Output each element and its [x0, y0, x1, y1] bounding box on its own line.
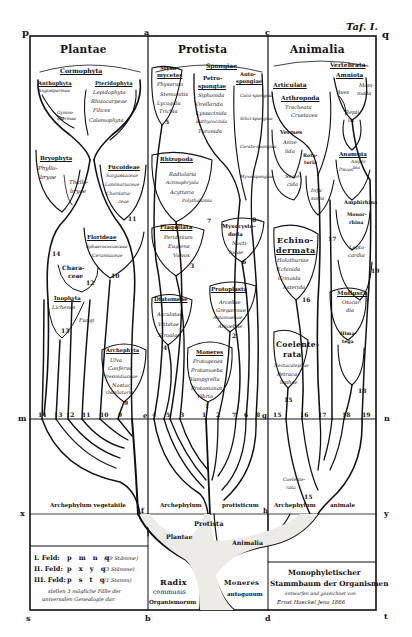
taxon-vittatae: Vittatae	[158, 322, 179, 327]
group-cormophyta: Cormophyta	[60, 68, 102, 74]
kingdom-animalia: Animalia	[290, 44, 345, 55]
stem-number-16: 16	[302, 297, 310, 303]
trunk-label-plantae: Plantae	[166, 534, 192, 540]
label-moneres-autogonum-2: autogonum	[227, 592, 263, 598]
taxon-arcellae: Arcellae	[219, 300, 241, 305]
corner-letter-s: s	[26, 614, 31, 622]
taxon-conferva: Conferva	[108, 366, 132, 371]
taxon-lycogala: Lycogala	[157, 101, 180, 106]
corner-letter-g: g	[262, 412, 267, 419]
taxon-himatega-1: Hima-	[340, 331, 357, 336]
group-moneres: Moneres	[196, 350, 223, 356]
label-coelenterata-small-1: Coelente-	[283, 478, 305, 483]
title-line-2: Stammbaum der Organismen	[270, 580, 388, 587]
label-moneres-autogonum-1: Moneres	[224, 580, 259, 587]
group-coelenterata-1: Coelente-	[276, 341, 319, 349]
corner-letter-n: n	[384, 414, 390, 422]
corner-letter-t: t	[384, 612, 388, 620]
group-petrospongiae-2: spongiae	[198, 84, 226, 90]
taxon-infusoria-1: Infu-	[311, 188, 323, 193]
legend-caption-2: universalen Genealogie dar.	[42, 597, 115, 602]
taxon-echinida: Echinida	[277, 267, 300, 272]
stem-number-9: 9	[124, 400, 128, 406]
title-author: Ernst Haeckel Jena 1866	[277, 600, 345, 605]
stem-number-12: 12	[86, 280, 94, 286]
group-fucoideae: Fucoideae	[108, 165, 140, 171]
protista-bottom-number: 2	[216, 412, 220, 418]
legend-note-2: (3 Stämme)	[104, 567, 135, 572]
taxon-noctilucae-1: Nocti-	[232, 241, 248, 246]
stem-number-14: 14	[52, 251, 60, 257]
taxon-gregarinae: Gregarinae	[216, 308, 246, 313]
taxon-filices: Filices	[93, 108, 110, 113]
taxon-rotatoria-2: toria	[304, 160, 317, 165]
trunk-label-protista: Protista	[194, 521, 223, 528]
taxon-calcispongiae: Calci-spongiae	[240, 94, 273, 98]
taxon-thallobryae-2: bryae	[70, 189, 86, 195]
legend-note-1: (19 Stämme)	[104, 556, 138, 561]
taxon-otocardia-1: Otocar-	[342, 300, 362, 305]
plantae-bottom-number: 14	[38, 412, 46, 418]
taxon-turonida: Turonida	[198, 129, 222, 134]
legend-field-2: II. Feld:	[34, 566, 63, 573]
group-flagellata: Flagellata	[160, 225, 192, 231]
taxon-sphaerococcaceae: Sphaerococcaceae	[86, 245, 128, 249]
taxon-leptocardia-2: cardia	[348, 253, 365, 258]
group-mollusca: Mollusca	[337, 290, 367, 296]
haeckel-tree-plate: p a c q Taf. I. m n x y s b d t e f g h …	[0, 0, 412, 637]
taxon-monorrhina-2: rhina	[349, 220, 363, 225]
corner-letter-y: y	[384, 509, 389, 517]
corner-letter-b: b	[145, 614, 151, 622]
stem-number-19: 19	[371, 268, 379, 274]
taxon-lyssacinida: Lyssacinida	[196, 111, 227, 116]
stem-number-3: 3	[190, 263, 194, 269]
taxon-silicispongiae: Silici-spongiae	[240, 117, 273, 121]
taxon-vampyrella: Vampyrella	[190, 377, 220, 382]
stem-number-17: 17	[328, 236, 336, 242]
stem-number-15-lower: 15	[304, 494, 312, 500]
taxon-chordariaceae-1: Chordaria-	[106, 192, 131, 197]
corner-letter-c: c	[265, 28, 270, 36]
taxon-amphibia-2: bia	[353, 166, 360, 170]
group-echinodermata-1: Echino-	[277, 236, 313, 244]
taxon-annelida-1: Anne-	[283, 140, 298, 145]
taxon-ceratospongiae: Cerato-spongiae	[240, 145, 277, 149]
taxon-leptocardia-1: Lepto-	[349, 245, 366, 250]
legend-letters-3: p s t q	[67, 577, 107, 584]
taxon-noctilucae-2: lucae	[229, 250, 243, 255]
corner-letter-d: d	[265, 614, 271, 622]
taxon-vibrio: Vibrio	[197, 394, 213, 399]
label-archephylum-protisticum-2: protisticum	[222, 503, 259, 509]
group-amphirhina: Amphirhina	[344, 200, 377, 205]
group-characeae-2: ceae	[68, 273, 83, 279]
taxon-radiolaria: Radiolaria	[169, 172, 196, 177]
group-anthophyta: Anthophyta	[38, 81, 72, 86]
label-radix-2: communis	[153, 589, 186, 595]
corner-letter-x: x	[20, 509, 25, 517]
taxon-ulva: Ulva	[110, 358, 122, 363]
taxon-fungi: Fungi	[79, 318, 94, 323]
stem-number-10: 10	[111, 273, 119, 279]
protista-bottom-number: 4	[152, 412, 156, 418]
taxon-chordariaceae-2: ceae	[118, 200, 129, 205]
taxon-tracheata: Tracheata	[285, 105, 312, 110]
taxon-arculatae: Arculatae	[157, 312, 182, 317]
stem-number-11: 11	[128, 216, 136, 222]
taxon-asterida: Asterida	[283, 285, 305, 290]
taxon-protogenes: Protogenes	[193, 359, 223, 364]
plate-label: Taf. I.	[346, 22, 378, 32]
protista-bottom-number: 5	[166, 412, 170, 418]
taxon-himatega-2: tega	[342, 339, 354, 344]
group-amniota: Amniota	[336, 73, 363, 79]
animalia-bottom-number: 16	[300, 412, 308, 418]
group-articulata: Articulata	[273, 82, 307, 88]
stem-number-13: 13	[61, 328, 69, 334]
group-inophyta: Inophyta	[54, 296, 81, 301]
protista-bottom-number: 6	[244, 412, 248, 418]
kingdom-protista: Protista	[178, 44, 227, 55]
protista-bottom-number: 3	[180, 412, 184, 418]
taxon-gymnospermae-2: spermae	[57, 117, 76, 121]
taxon-scolecida-1: Scole-	[285, 174, 301, 179]
taxon-acyttaria: Acyttaria	[170, 190, 194, 195]
label-archephylum-animale-2: animale	[330, 503, 355, 509]
